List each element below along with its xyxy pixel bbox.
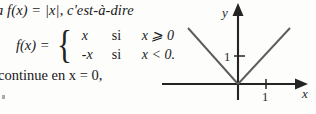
- continuity-text: continue en x = 0,: [0, 67, 102, 83]
- case-keyword-1: si: [112, 28, 142, 44]
- page-artifact-speck: [2, 95, 5, 99]
- case-value-2: -x: [76, 47, 112, 63]
- case-value-1: x: [76, 28, 112, 44]
- y-tick-label-1: 1: [224, 50, 230, 64]
- case-keyword-2: si: [112, 47, 142, 63]
- piecewise-lhs: f(x) =: [16, 37, 54, 54]
- x-tick-label-1: 1: [262, 90, 268, 104]
- y-axis: [233, 3, 244, 100]
- x-axis-label: x: [301, 86, 308, 101]
- figure-absolute-value-graph: y x 1 1: [160, 0, 316, 114]
- continuity-line: continue en x = 0,: [0, 68, 102, 83]
- textbook-excerpt-page: a f(x) = |x|, c'est-à-dire f(x) = { x si…: [0, 0, 316, 114]
- piecewise-definition: f(x) = { x si x ⩾ 0 -x si x < 0.: [16, 27, 175, 63]
- intro-line: a f(x) = |x|, c'est-à-dire: [0, 3, 134, 18]
- y-axis-label: y: [220, 5, 228, 20]
- cropped-leading-fragment: a: [0, 2, 3, 18]
- left-curly-brace: {: [57, 29, 72, 60]
- intro-formula: f(x) = |x|, c'est-à-dire: [7, 2, 134, 18]
